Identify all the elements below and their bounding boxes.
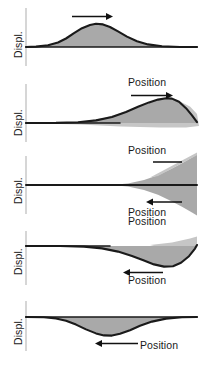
trough-fill [26, 245, 197, 267]
x-axis-label-top: Position [128, 144, 166, 156]
y-axis-label: Displ. [12, 318, 24, 345]
x-axis-label-top: Position [128, 215, 166, 227]
pulse-fill [26, 98, 197, 123]
y-axis-label: Displ. [12, 31, 24, 58]
x-axis-label-top: Position [128, 76, 166, 88]
panel-gaussian-pulse: Displ. [0, 0, 207, 74]
y-axis-label: Displ. [12, 248, 24, 275]
trough-ghost [150, 236, 197, 247]
panel-gaussian-trough: Displ. Position [0, 295, 207, 369]
panel-steepening-trough: Displ. Position Position [0, 221, 207, 295]
x-axis-label-bottom: Position [128, 274, 166, 286]
trough-fill [26, 317, 197, 336]
panel-steepening-pulse: Displ. Position [0, 74, 207, 148]
y-axis-label: Displ. [12, 109, 24, 136]
propagation-arrow-right [72, 13, 113, 20]
y-axis-label: Displ. [12, 177, 24, 204]
propagation-arrow-right [131, 92, 173, 99]
propagation-arrow-left [95, 340, 138, 347]
shock-wedge-upper-fill [110, 155, 197, 185]
panel-shock-wedge: Displ. Position Position [0, 148, 207, 222]
wave-steepening-figure: Displ. Displ. Position [0, 0, 207, 369]
x-axis-label: Position [140, 339, 178, 351]
